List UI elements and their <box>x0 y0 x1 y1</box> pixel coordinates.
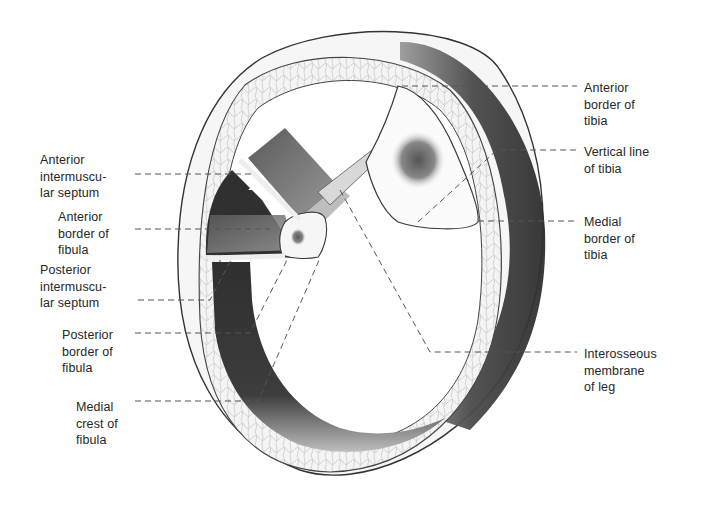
tibia-marrow <box>390 130 446 190</box>
label-vertical-line-of-tibia: Vertical line of tibia <box>584 144 649 177</box>
label-anterior-intermuscular-septum: Anterior intermuscu- lar septum <box>40 152 106 202</box>
posterior-septum-line <box>208 256 285 258</box>
label-posterior-intermuscular-septum: Posterior intermuscu- lar septum <box>40 262 106 312</box>
label-anterior-border-of-tibia: Anterior border of tibia <box>584 80 635 130</box>
label-interosseous-membrane-of-leg: Interosseous membrane of leg <box>584 346 657 396</box>
leg-cross-section-figure: Anterior intermuscu- lar septum Anterior… <box>0 0 705 518</box>
label-medial-border-of-tibia: Medial border of tibia <box>584 214 635 264</box>
label-medial-crest-of-fibula: Medial crest of fibula <box>76 399 118 449</box>
label-posterior-border-of-fibula: Posterior border of fibula <box>62 327 113 377</box>
label-anterior-border-of-fibula: Anterior border of fibula <box>58 209 109 259</box>
